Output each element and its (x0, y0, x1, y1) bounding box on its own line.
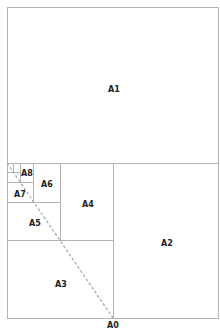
label-a4: A4 (82, 200, 94, 209)
label-a5: A5 (29, 219, 41, 228)
label-a1: A1 (108, 85, 120, 94)
label-a3: A3 (55, 280, 67, 289)
diagonal-line (0, 0, 220, 329)
label-a2: A2 (161, 239, 173, 248)
label-a7: A7 (14, 190, 26, 199)
label-a8: A8 (21, 169, 33, 178)
label-a0: A0 (107, 321, 119, 329)
label-a6: A6 (41, 180, 53, 189)
